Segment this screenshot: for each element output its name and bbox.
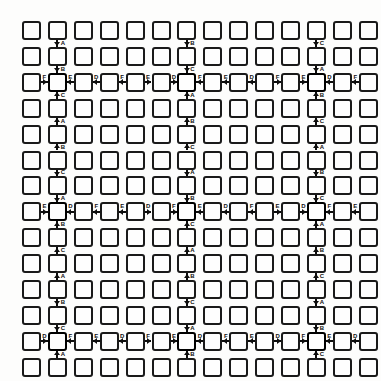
grid-node[interactable] [255, 176, 274, 195]
grid-node[interactable] [126, 332, 145, 351]
grid-node[interactable] [22, 358, 41, 377]
grid-node[interactable] [22, 125, 41, 144]
grid-node[interactable] [281, 47, 300, 66]
grid-node[interactable] [152, 73, 171, 92]
grid-node[interactable] [333, 332, 352, 351]
grid-node[interactable] [126, 358, 145, 377]
grid-node[interactable] [229, 202, 248, 221]
grid-node[interactable] [281, 151, 300, 170]
grid-node[interactable] [74, 47, 93, 66]
grid-node[interactable] [307, 47, 326, 66]
grid-node[interactable] [48, 254, 67, 273]
grid-node[interactable] [22, 21, 41, 40]
grid-node[interactable] [359, 47, 378, 66]
grid-node[interactable] [229, 21, 248, 40]
grid-node[interactable] [255, 332, 274, 351]
grid-node[interactable] [22, 151, 41, 170]
grid-node[interactable] [333, 280, 352, 299]
grid-node[interactable] [333, 73, 352, 92]
grid-node[interactable] [333, 228, 352, 247]
grid-node[interactable] [48, 306, 67, 325]
grid-node[interactable] [359, 332, 378, 351]
grid-node[interactable] [255, 228, 274, 247]
grid-node[interactable] [177, 280, 196, 299]
grid-node[interactable] [203, 176, 222, 195]
grid-node[interactable] [255, 202, 274, 221]
grid-hub-node[interactable] [177, 202, 196, 221]
grid-node[interactable] [333, 151, 352, 170]
grid-node[interactable] [255, 306, 274, 325]
grid-node[interactable] [255, 280, 274, 299]
grid-node[interactable] [152, 332, 171, 351]
grid-node[interactable] [229, 358, 248, 377]
grid-node[interactable] [74, 202, 93, 221]
grid-node[interactable] [126, 176, 145, 195]
grid-node[interactable] [307, 254, 326, 273]
grid-node[interactable] [203, 125, 222, 144]
grid-node[interactable] [100, 332, 119, 351]
grid-node[interactable] [359, 228, 378, 247]
grid-node[interactable] [359, 151, 378, 170]
grid-node[interactable] [229, 280, 248, 299]
grid-node[interactable] [359, 358, 378, 377]
grid-node[interactable] [281, 125, 300, 144]
grid-node[interactable] [359, 99, 378, 118]
grid-node[interactable] [22, 99, 41, 118]
grid-node[interactable] [307, 228, 326, 247]
grid-hub-node[interactable] [177, 73, 196, 92]
grid-node[interactable] [74, 358, 93, 377]
grid-node[interactable] [203, 47, 222, 66]
grid-node[interactable] [74, 151, 93, 170]
grid-node[interactable] [281, 306, 300, 325]
grid-node[interactable] [255, 358, 274, 377]
grid-node[interactable] [126, 125, 145, 144]
grid-node[interactable] [126, 254, 145, 273]
grid-node[interactable] [48, 358, 67, 377]
grid-node[interactable] [281, 202, 300, 221]
grid-node[interactable] [100, 47, 119, 66]
grid-node[interactable] [203, 202, 222, 221]
grid-node[interactable] [281, 358, 300, 377]
grid-node[interactable] [307, 358, 326, 377]
grid-node[interactable] [229, 332, 248, 351]
grid-node[interactable] [281, 99, 300, 118]
grid-node[interactable] [229, 176, 248, 195]
grid-node[interactable] [281, 228, 300, 247]
grid-node[interactable] [74, 176, 93, 195]
grid-node[interactable] [203, 280, 222, 299]
grid-node[interactable] [152, 358, 171, 377]
grid-node[interactable] [177, 151, 196, 170]
grid-node[interactable] [281, 254, 300, 273]
grid-node[interactable] [229, 73, 248, 92]
grid-node[interactable] [74, 332, 93, 351]
grid-node[interactable] [152, 125, 171, 144]
grid-node[interactable] [74, 21, 93, 40]
grid-node[interactable] [177, 358, 196, 377]
grid-node[interactable] [177, 254, 196, 273]
grid-node[interactable] [333, 176, 352, 195]
grid-hub-node[interactable] [307, 73, 326, 92]
grid-node[interactable] [203, 332, 222, 351]
grid-node[interactable] [48, 21, 67, 40]
grid-node[interactable] [22, 306, 41, 325]
grid-node[interactable] [307, 99, 326, 118]
grid-node[interactable] [255, 254, 274, 273]
grid-node[interactable] [203, 99, 222, 118]
grid-node[interactable] [229, 306, 248, 325]
grid-node[interactable] [152, 228, 171, 247]
grid-hub-node[interactable] [307, 202, 326, 221]
grid-node[interactable] [177, 47, 196, 66]
grid-node[interactable] [255, 47, 274, 66]
grid-node[interactable] [74, 125, 93, 144]
grid-node[interactable] [203, 306, 222, 325]
grid-node[interactable] [100, 125, 119, 144]
grid-node[interactable] [359, 306, 378, 325]
grid-node[interactable] [229, 99, 248, 118]
grid-node[interactable] [74, 99, 93, 118]
grid-node[interactable] [152, 306, 171, 325]
grid-node[interactable] [307, 176, 326, 195]
grid-node[interactable] [74, 306, 93, 325]
grid-node[interactable] [281, 73, 300, 92]
grid-node[interactable] [74, 228, 93, 247]
grid-node[interactable] [48, 99, 67, 118]
